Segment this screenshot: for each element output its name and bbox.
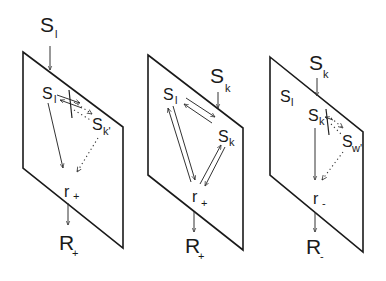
node-sl-left-sub: l xyxy=(54,93,56,105)
panel-right: S k S l S k S w' r - R - xyxy=(270,51,363,262)
diagram-canvas: S l S l S k' r + R + S k S l S k r + xyxy=(0,0,386,281)
node-sl-right: S xyxy=(280,88,291,105)
node-r-left: r xyxy=(64,183,70,200)
edge-dotted-top-left xyxy=(74,102,92,114)
input-label-left: S xyxy=(40,13,54,36)
node-r-left-sub: + xyxy=(73,190,79,202)
node-sk-right: S xyxy=(308,107,319,124)
edge-sk-sl-middle xyxy=(184,104,212,123)
output-sub-right: - xyxy=(320,250,324,262)
edge-r-sk-middle xyxy=(200,145,221,184)
edge-r-sl-middle xyxy=(168,108,191,182)
plane-left xyxy=(23,52,123,248)
panel-left: S l S l S k' r + R + xyxy=(23,13,123,259)
edge-sl-r-middle xyxy=(173,106,195,180)
input-sub-right: k xyxy=(323,68,329,80)
node-sk-prime-left: S xyxy=(92,116,103,133)
input-label-middle: S xyxy=(210,64,224,87)
node-sk-right-sub: k xyxy=(319,115,325,127)
edge-sl-sk-middle xyxy=(186,98,215,117)
node-r-middle-sub: + xyxy=(201,197,207,209)
node-r-right: r xyxy=(313,190,319,207)
edge-dotted-bottom-left xyxy=(74,110,92,121)
node-sw-prime-right-sub: w' xyxy=(351,142,362,154)
edge-sl-sk-left xyxy=(57,95,80,103)
node-sl-left: S xyxy=(42,85,53,102)
edge-sk-r-middle xyxy=(205,147,225,186)
output-sub-middle: + xyxy=(198,250,204,262)
edge-sk-r-left xyxy=(77,138,98,172)
node-sk-prime-left-sub: k' xyxy=(103,125,111,137)
output-label-right: R xyxy=(306,235,321,258)
node-sk-middle-sub: k xyxy=(229,136,235,148)
node-sl-middle-sub: l xyxy=(175,94,177,106)
node-sk-middle: S xyxy=(218,128,229,145)
node-r-middle: r xyxy=(192,188,198,205)
output-sub-left: + xyxy=(72,247,78,259)
input-label-right: S xyxy=(309,51,323,74)
edge-sl-r-left xyxy=(48,103,63,168)
node-sl-middle: S xyxy=(163,86,174,103)
node-r-right-sub: - xyxy=(322,197,326,209)
input-sub-middle: k xyxy=(225,82,231,94)
panel-middle: S k S l S k r + R + xyxy=(148,55,243,262)
edge-sw-r-right xyxy=(322,152,343,180)
node-sl-right-sub: l xyxy=(291,96,293,108)
edge-dotted-bottom-right xyxy=(331,124,341,134)
input-sub-left: l xyxy=(55,28,57,40)
block-bar-right xyxy=(326,109,329,135)
